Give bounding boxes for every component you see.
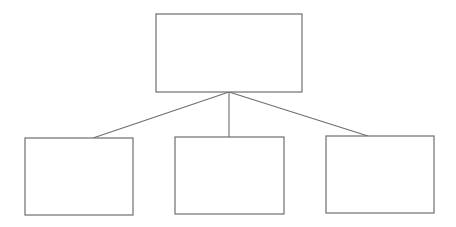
child-node-left[interactable] <box>25 138 133 215</box>
connector-root-to-left <box>93 92 229 138</box>
child-node-middle[interactable] <box>175 137 284 214</box>
child-node-right[interactable] <box>326 136 434 213</box>
root-node[interactable] <box>156 14 302 92</box>
org-chart-diagram <box>0 0 456 227</box>
connector-root-to-right <box>229 92 368 136</box>
